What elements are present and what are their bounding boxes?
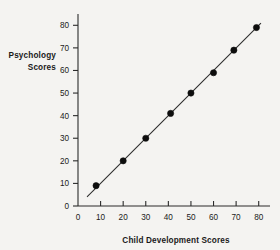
x-tick-label: 80 bbox=[254, 213, 264, 222]
y-tick-label: 80 bbox=[60, 21, 70, 30]
x-tick-label: 30 bbox=[141, 213, 151, 222]
scatter-plot-figure: 01020304050607080 01020304050607080 Chil… bbox=[0, 0, 280, 250]
data-point bbox=[120, 158, 126, 164]
y-tick-label: 70 bbox=[60, 44, 70, 53]
chart-canvas: 01020304050607080 01020304050607080 Chil… bbox=[0, 0, 280, 250]
y-tick-label: 10 bbox=[60, 179, 70, 188]
y-tick-label: 50 bbox=[60, 89, 70, 98]
x-tick-label: 50 bbox=[186, 213, 196, 222]
x-tick-label: 60 bbox=[209, 213, 219, 222]
x-axis-title: Child Development Scores bbox=[122, 236, 230, 245]
data-point bbox=[93, 183, 99, 189]
x-tick-label: 0 bbox=[76, 213, 81, 222]
x-tick-label: 20 bbox=[119, 213, 129, 222]
x-axis-ticks: 01020304050607080 bbox=[76, 201, 264, 222]
data-point bbox=[210, 70, 216, 76]
y-axis-title-line2: Scores bbox=[28, 63, 57, 72]
y-tick-label: 30 bbox=[60, 134, 70, 143]
data-point bbox=[231, 47, 237, 53]
data-point bbox=[168, 110, 174, 116]
data-point bbox=[253, 24, 259, 30]
x-tick-label: 70 bbox=[232, 213, 242, 222]
data-point bbox=[188, 90, 194, 96]
y-tick-label: 20 bbox=[60, 157, 70, 166]
y-axis-title-line1: Psychology bbox=[9, 51, 57, 60]
y-tick-label: 40 bbox=[60, 112, 70, 121]
y-tick-label: 60 bbox=[60, 66, 70, 75]
x-tick-label: 40 bbox=[164, 213, 174, 222]
y-axis-ticks: 01020304050607080 bbox=[60, 21, 78, 211]
x-tick-label: 10 bbox=[96, 213, 106, 222]
data-points bbox=[93, 24, 260, 188]
data-point bbox=[143, 135, 149, 141]
y-tick-label: 0 bbox=[64, 202, 69, 211]
